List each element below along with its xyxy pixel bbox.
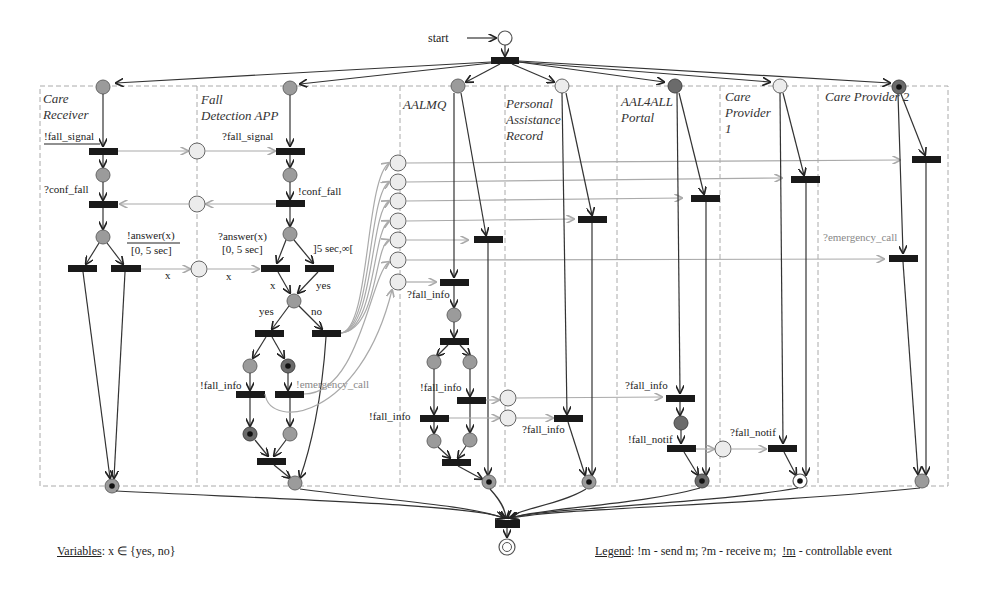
transition-conf-fall-send[interactable]: [276, 200, 305, 207]
place[interactable]: [674, 416, 688, 430]
lane-title-portal: AAL4ALL: [620, 94, 673, 109]
lane-title-aalmq: AALMQ: [402, 97, 447, 112]
transition-answer-recv[interactable]: [261, 265, 290, 272]
transition-portal-fall-notif-send[interactable]: [667, 445, 696, 452]
channel-place[interactable]: [390, 193, 406, 209]
petri-net-diagram: Care Receiver Fall Detection APP AALMQ P…: [0, 0, 982, 595]
place-fall-detection-init[interactable]: [283, 81, 297, 95]
place-cp2-final[interactable]: [915, 474, 929, 488]
transition-fall-signal-recv[interactable]: [276, 148, 305, 155]
lane-title-care-receiver: Care: [43, 91, 69, 106]
lane-title-cp1: Care: [725, 89, 751, 104]
label-fd-fall-info: !fall_info: [200, 379, 242, 391]
label-x: x: [165, 269, 171, 281]
legend-label: Legend: [595, 544, 631, 558]
place[interactable]: [283, 227, 297, 241]
legend-receive: ?m - receive m;: [698, 544, 776, 558]
legend-controllable-text: - controllable event: [796, 544, 892, 558]
label-conf-fall-recv: ?conf_fall: [44, 183, 89, 195]
channel-place-fall-info[interactable]: [390, 274, 406, 290]
label-cp2-emergency-recv: ?emergency_call: [823, 231, 897, 243]
place[interactable]: [243, 359, 257, 373]
transition-portal-fall-info-recv[interactable]: [666, 395, 695, 402]
channel-answer[interactable]: [191, 261, 207, 277]
channel-stack: [265, 155, 900, 412]
place[interactable]: [463, 355, 477, 369]
transition-aalmq-fork[interactable]: [440, 338, 469, 345]
place[interactable]: [283, 168, 297, 182]
transition-timeout[interactable]: [305, 265, 334, 272]
channel-fall-info-par[interactable]: [500, 410, 516, 426]
transition-cp1-1[interactable]: [791, 176, 820, 183]
variables-text: : x ∈ {yes, no}: [102, 544, 176, 558]
transition-aalmq-fall-info-send2[interactable]: [420, 415, 449, 422]
start-place[interactable]: [498, 31, 512, 45]
label-x: x: [226, 270, 232, 282]
transition-cr-no-answer[interactable]: [68, 265, 97, 272]
channel-cr-fd: x: [118, 143, 276, 282]
transition-conf-fall-recv[interactable]: [89, 201, 118, 208]
swimlane-outer-border: [40, 86, 948, 486]
transition-cp2-emergency-recv[interactable]: [889, 255, 918, 262]
label-answer-send-interval: [0, 5 sec]: [131, 244, 172, 256]
final-transition[interactable]: [495, 520, 520, 528]
lane-title-par-2: Assistance: [505, 112, 561, 127]
channel-place[interactable]: [390, 213, 406, 229]
label-portal-fall-notif-send: !fall_notif: [628, 433, 673, 445]
channel-place[interactable]: [390, 174, 406, 190]
channel-place[interactable]: [390, 252, 406, 268]
place-par-init[interactable]: [555, 79, 569, 93]
transition-answer-send[interactable]: [111, 265, 141, 272]
cp1-net: ?fall_notif: [730, 93, 820, 488]
transition-fd-fall-info-send[interactable]: [236, 391, 265, 398]
place-decision[interactable]: [287, 294, 301, 308]
place[interactable]: [283, 427, 297, 441]
place[interactable]: [463, 433, 477, 447]
label-answer-recv: ?answer(x): [218, 230, 267, 243]
end-place[interactable]: [499, 539, 515, 555]
cp2-net: ?emergency_call: [823, 94, 941, 488]
transition-fall-signal-send[interactable]: [89, 148, 118, 155]
place-aalmq-init[interactable]: [451, 79, 465, 93]
place[interactable]: [447, 308, 461, 322]
channel-place[interactable]: [390, 232, 406, 248]
place-cp1-init[interactable]: [773, 79, 787, 93]
legend: Legend: !m - send m; ?m - receive m; !m …: [595, 544, 892, 559]
place[interactable]: [96, 230, 110, 244]
place[interactable]: [96, 168, 110, 182]
place[interactable]: [427, 434, 441, 448]
variables-label: Variables: [57, 544, 102, 558]
label-cp1-fall-notif-recv: ?fall_notif: [730, 426, 776, 438]
place-care-receiver-init[interactable]: [96, 80, 110, 94]
transition-no[interactable]: [312, 330, 341, 337]
channel-fall-info-portal[interactable]: [500, 390, 516, 406]
channel-conf-fall[interactable]: [189, 196, 205, 212]
channel-place[interactable]: [390, 155, 406, 171]
par-net: ?fall_info: [522, 93, 607, 489]
label-par-fall-info-recv: ?fall_info: [522, 423, 565, 435]
lane-title-cp1-2: Provider: [724, 105, 772, 120]
swimlanes: [40, 86, 948, 486]
transition-aalmq-fall-info-send1[interactable]: [457, 397, 486, 404]
transition-cp1-fall-notif-recv[interactable]: [768, 445, 797, 452]
transition-aalmq-join[interactable]: [442, 459, 471, 466]
label-mq-fall-info-recv: ?fall_info: [407, 288, 450, 300]
place-portal-init[interactable]: [668, 79, 682, 93]
start-transition[interactable]: [491, 57, 519, 64]
transition-par-fall-info-recv[interactable]: [554, 415, 583, 422]
transition-fd-join[interactable]: [257, 458, 286, 465]
transition-par-1[interactable]: [578, 216, 607, 223]
transition-aalmq-1[interactable]: [474, 236, 503, 243]
lane-title-cp1-3: 1: [725, 121, 732, 136]
channel-fall-signal[interactable]: [189, 143, 205, 159]
label-mq-fall-info-send2: !fall_info: [369, 410, 411, 422]
transition-portal-1[interactable]: [691, 195, 720, 202]
lane-title-fall-detection-2: Detection APP: [200, 108, 278, 123]
transition-yes[interactable]: [255, 330, 284, 337]
channel-fall-notif[interactable]: [715, 441, 731, 457]
transition-aalmq-fall-info-recv[interactable]: [440, 279, 469, 286]
transition-fd-emergency-send[interactable]: [275, 391, 304, 398]
transition-cp2-1[interactable]: [912, 156, 941, 163]
place[interactable]: [427, 355, 441, 369]
place-fall-detection-final[interactable]: [288, 476, 302, 490]
